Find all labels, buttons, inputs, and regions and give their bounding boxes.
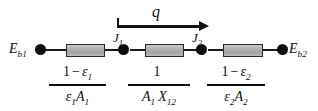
fraction-1-num-subscript: 1 xyxy=(87,72,92,82)
fraction-3-num-subscript: 2 xyxy=(246,72,251,82)
fraction-2-num-one: 1 xyxy=(154,64,161,79)
label-eb1: Eb1 xyxy=(9,42,27,59)
label-j1: J1 xyxy=(113,31,123,47)
fraction-1-numerator: 1−ε1 xyxy=(49,64,106,83)
arrow-shaft xyxy=(117,25,202,28)
label-j2-subscript: 2 xyxy=(198,38,202,48)
fraction-1-den-symbol-2: A xyxy=(76,89,85,104)
resistor-space-12 xyxy=(145,44,184,57)
fraction-surface-resistance-2: 1−ε2 ε2A2 xyxy=(207,64,265,107)
fraction-3-den-subscript-2: 2 xyxy=(243,96,248,106)
label-q: q xyxy=(152,4,160,20)
label-eb2-subscript: b2 xyxy=(298,49,307,59)
fraction-1-num-one: 1 xyxy=(63,64,70,79)
fraction-3-bar xyxy=(207,84,265,86)
label-q-symbol: q xyxy=(152,3,160,20)
fraction-1-bar xyxy=(49,84,106,86)
fraction-3-numerator: 1−ε2 xyxy=(207,64,265,83)
label-j1-subscript: 1 xyxy=(119,38,123,48)
arrow-head-icon xyxy=(199,21,209,31)
label-eb1-symbol: E xyxy=(9,41,18,56)
resistor-surface-1 xyxy=(66,44,105,57)
fraction-1-denominator: ε1A1 xyxy=(49,88,106,107)
fraction-2-num-op xyxy=(161,64,165,79)
fraction-1-num-op: − xyxy=(70,64,82,79)
label-eb1-subscript: b1 xyxy=(18,49,27,59)
node-eb2 xyxy=(277,44,288,55)
fraction-2-bar xyxy=(128,84,190,86)
fraction-2-den-symbol-2: X xyxy=(158,89,167,104)
fraction-3-denominator: ε2A2 xyxy=(207,88,265,107)
node-eb1 xyxy=(35,44,46,55)
fraction-2-den-subscript-2: 12 xyxy=(167,96,176,106)
fraction-1-den-subscript-2: 1 xyxy=(85,96,90,106)
fraction-3-den-symbol-2: A xyxy=(234,89,243,104)
fraction-2-den-subscript-1: 1 xyxy=(151,96,156,106)
label-eb2-symbol: E xyxy=(289,41,298,56)
radiation-network-diagram: Eb1 Eb2 J1 J2 q 1−ε1 ε1A1 1 A1X12 1−ε2 ε… xyxy=(0,0,318,111)
fraction-3-num-op: − xyxy=(228,64,240,79)
fraction-2-denominator: A1X12 xyxy=(128,88,190,107)
label-j2: J2 xyxy=(192,31,202,47)
label-eb2: Eb2 xyxy=(289,42,307,59)
fraction-2-den-symbol-1: A xyxy=(142,89,151,104)
fraction-surface-resistance-1: 1−ε1 ε1A1 xyxy=(49,64,106,107)
fraction-space-resistance-12: 1 A1X12 xyxy=(128,64,190,107)
resistor-surface-2 xyxy=(223,44,263,57)
fraction-2-numerator: 1 xyxy=(128,64,190,83)
